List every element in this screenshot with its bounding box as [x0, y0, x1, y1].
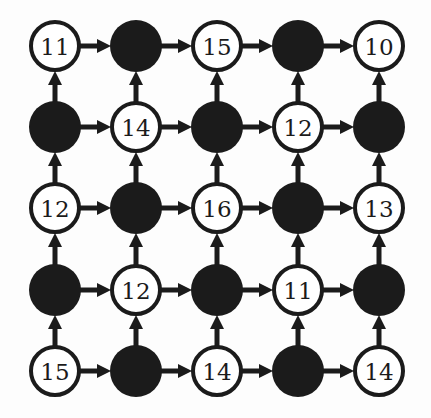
arrowhead-icon: [210, 71, 224, 85]
arrowhead-icon: [97, 283, 111, 297]
arrowhead-icon: [129, 315, 143, 329]
edge-up-r2-c3: [291, 152, 305, 183]
edge-up-r4-c0: [48, 315, 62, 346]
arrowhead-icon: [259, 283, 273, 297]
arrowhead-icon: [48, 233, 62, 247]
arrowhead-icon: [97, 39, 111, 53]
edge-up-r3-c0: [48, 233, 62, 265]
filled-circle-icon: [353, 264, 405, 316]
labeled-node: 15: [31, 347, 79, 395]
arrowhead-icon: [340, 283, 354, 297]
arrowhead-icon: [48, 315, 62, 329]
filled-circle-icon: [110, 182, 162, 234]
arrowhead-icon: [340, 201, 354, 215]
labeled-node: 13: [355, 184, 403, 232]
edge-up-r3-c2: [210, 233, 224, 265]
node-value: 14: [121, 115, 150, 141]
labeled-node: 15: [193, 22, 241, 70]
node-value: 16: [202, 196, 231, 222]
arrowhead-icon: [291, 152, 305, 166]
filled-circle-icon: [272, 20, 324, 72]
labeled-node: 12: [31, 184, 79, 232]
edge-right-r1-c3: [323, 120, 354, 134]
edge-right-r4-c0: [80, 364, 111, 378]
arrowhead-icon: [48, 152, 62, 166]
filled-circle-icon: [191, 101, 243, 153]
filled-node: [272, 345, 324, 397]
edge-up-r3-c4: [372, 233, 386, 265]
node-value: 14: [202, 359, 231, 385]
edge-up-r1-c4: [372, 71, 386, 102]
filled-node: [110, 20, 162, 72]
edge-right-r0-c0: [80, 39, 111, 53]
edge-right-r0-c2: [242, 39, 273, 53]
edge-right-r2-c2: [242, 201, 273, 215]
edge-right-r3-c1: [161, 283, 192, 297]
arrowhead-icon: [97, 201, 111, 215]
labeled-node: 12: [112, 266, 160, 314]
arrowhead-icon: [259, 201, 273, 215]
edge-right-r4-c2: [242, 364, 273, 378]
edge-right-r4-c1: [161, 364, 192, 378]
filled-circle-icon: [29, 264, 81, 316]
node-value: 12: [40, 196, 69, 222]
filled-circle-icon: [110, 345, 162, 397]
filled-circle-icon: [353, 101, 405, 153]
filled-node: [29, 101, 81, 153]
edge-right-r3-c2: [242, 283, 273, 297]
edge-up-r2-c4: [372, 152, 386, 183]
edge-up-r4-c3: [291, 315, 305, 346]
arrowhead-icon: [210, 152, 224, 166]
edge-up-r3-c1: [129, 233, 143, 265]
labeled-node: 10: [355, 22, 403, 70]
filled-circle-icon: [272, 182, 324, 234]
arrowhead-icon: [259, 364, 273, 378]
filled-node: [272, 182, 324, 234]
edge-right-r0-c3: [323, 39, 354, 53]
edge-right-r3-c3: [323, 283, 354, 297]
node-value: 10: [364, 34, 393, 60]
edge-up-r3-c3: [291, 233, 305, 265]
labeled-node: 14: [355, 347, 403, 395]
node-value: 11: [283, 278, 312, 304]
arrowhead-icon: [129, 71, 143, 85]
filled-node: [272, 20, 324, 72]
edge-up-r4-c1: [129, 315, 143, 346]
arrowhead-icon: [372, 233, 386, 247]
arrowhead-icon: [372, 315, 386, 329]
filled-node: [191, 101, 243, 153]
node-value: 12: [121, 278, 150, 304]
edge-up-r1-c0: [48, 71, 62, 102]
edge-up-r2-c2: [210, 152, 224, 183]
arrowhead-icon: [129, 152, 143, 166]
grid-diagram: 11151014121216131211151414: [0, 0, 431, 418]
filled-circle-icon: [272, 345, 324, 397]
filled-circle-icon: [191, 264, 243, 316]
node-value: 15: [40, 359, 69, 385]
labeled-node: 14: [112, 103, 160, 151]
filled-node: [110, 182, 162, 234]
node-value: 14: [364, 359, 393, 385]
arrowhead-icon: [340, 364, 354, 378]
arrowhead-icon: [178, 201, 192, 215]
node-value: 15: [202, 34, 231, 60]
arrowhead-icon: [129, 233, 143, 247]
edge-up-r1-c3: [291, 71, 305, 102]
node-value: 11: [40, 34, 69, 60]
arrowhead-icon: [178, 283, 192, 297]
filled-circle-icon: [29, 101, 81, 153]
edge-right-r1-c1: [161, 120, 192, 134]
filled-node: [353, 101, 405, 153]
filled-node: [29, 264, 81, 316]
edge-right-r2-c1: [161, 201, 192, 215]
arrowhead-icon: [259, 39, 273, 53]
edge-right-r1-c2: [242, 120, 273, 134]
edge-right-r4-c3: [323, 364, 354, 378]
arrowhead-icon: [340, 39, 354, 53]
arrowhead-icon: [372, 71, 386, 85]
arrowhead-icon: [372, 152, 386, 166]
arrowhead-icon: [210, 233, 224, 247]
node-value: 13: [364, 196, 393, 222]
arrowhead-icon: [210, 315, 224, 329]
arrowhead-icon: [178, 120, 192, 134]
